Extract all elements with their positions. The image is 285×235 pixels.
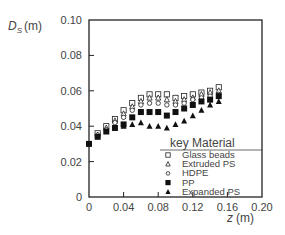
y-tick-label: 0.02 <box>61 156 82 168</box>
marker-filled-triangle <box>198 107 204 113</box>
legend-title: key Material <box>170 136 235 150</box>
marker-filled-triangle <box>190 112 196 118</box>
marker-open-circle <box>130 108 134 112</box>
marker-filled-square <box>95 134 101 140</box>
x-tick-label: 0.04 <box>113 201 134 213</box>
legend: key Material Glass beadsExtruded PSHDPEP… <box>160 136 262 197</box>
x-tick-label: 0 <box>86 201 92 213</box>
marker-filled-square <box>103 129 109 135</box>
marker-filled-square <box>181 106 187 112</box>
marker-open-circle <box>182 101 186 105</box>
marker-open-circle <box>191 97 195 101</box>
marker-filled-square <box>155 109 161 115</box>
scatter-chart: DS(m) z(m) 00.020.040.060.080.10 00.040.… <box>0 0 285 235</box>
marker-filled-triangle <box>164 125 170 131</box>
marker-filled-square <box>198 98 204 104</box>
marker-filled-square <box>86 141 92 147</box>
marker-filled-square <box>165 180 170 185</box>
marker-filled-triangle <box>181 118 187 124</box>
marker-filled-square <box>190 102 196 108</box>
marker-open-circle <box>147 101 151 105</box>
marker-open-square <box>166 153 170 157</box>
x-tick-label: 0.12 <box>182 201 203 213</box>
y-tick-label: 0 <box>76 191 82 203</box>
marker-filled-triangle <box>165 189 170 194</box>
marker-open-circle <box>121 115 125 119</box>
y-tick-label: 0.06 <box>61 85 82 97</box>
x-tick-label: 0.16 <box>217 201 238 213</box>
marker-open-circle <box>139 103 143 107</box>
marker-filled-square <box>138 109 144 115</box>
series-expanded-ps <box>121 98 222 130</box>
marker-filled-square <box>216 93 222 99</box>
legend-item: Expanded PS <box>165 186 240 197</box>
x-tick-label: 0.20 <box>251 201 272 213</box>
marker-filled-square <box>112 125 118 131</box>
y-tick-label: 0.04 <box>61 120 82 132</box>
legend-label: Expanded PS <box>182 186 240 197</box>
marker-filled-square <box>173 109 179 115</box>
marker-open-circle <box>113 120 117 124</box>
marker-filled-triangle <box>138 119 144 125</box>
marker-filled-triangle <box>155 123 161 129</box>
marker-filled-square <box>164 113 170 119</box>
x-axis-ticks: 00.040.080.120.160.20 <box>86 192 273 213</box>
marker-open-circle <box>165 103 169 107</box>
marker-filled-square <box>207 97 213 103</box>
marker-filled-triangle <box>147 123 153 129</box>
y-axis-label: DS(m) <box>8 19 42 35</box>
marker-filled-square <box>129 114 135 120</box>
plot-frame <box>89 20 262 197</box>
marker-filled-triangle <box>129 121 135 127</box>
marker-filled-square <box>147 109 153 115</box>
y-tick-label: 0.08 <box>61 49 82 61</box>
y-tick-label: 0.10 <box>61 14 82 26</box>
x-tick-label: 0.08 <box>147 201 168 213</box>
marker-open-triangle <box>164 97 169 102</box>
marker-open-triangle <box>166 162 170 166</box>
marker-open-circle <box>156 101 160 105</box>
marker-open-circle <box>166 172 170 176</box>
marker-filled-triangle <box>173 121 179 127</box>
x-axis-label: z(m) <box>226 211 254 225</box>
marker-open-circle <box>173 103 177 107</box>
